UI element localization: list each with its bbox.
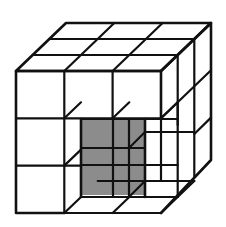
cube-diagram: 3x3x3 cube with corner removed bbox=[0, 0, 226, 227]
top-face bbox=[16, 23, 211, 71]
cube-drawing bbox=[0, 0, 226, 227]
